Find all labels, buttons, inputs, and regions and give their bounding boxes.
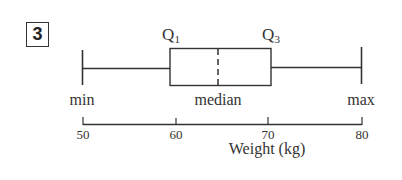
q3-label: Q3 (262, 25, 280, 45)
median-label: median (194, 91, 241, 109)
min-label: min (70, 91, 95, 109)
x-axis-title: Weight (kg) (229, 140, 305, 158)
x-tick-label-80: 80 (356, 127, 369, 143)
x-tick-label-60: 60 (170, 127, 183, 143)
x-tick-label-50: 50 (77, 127, 90, 143)
iqr-box (170, 49, 271, 86)
max-label: max (347, 91, 375, 109)
box-plot (0, 0, 402, 180)
q1-label: Q1 (162, 25, 180, 45)
